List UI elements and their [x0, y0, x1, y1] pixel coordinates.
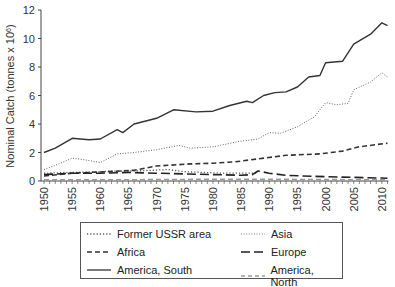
- x-tick-label: 1960: [94, 187, 106, 211]
- x-axis: 1950195519601965197019751980198519901995…: [38, 181, 389, 211]
- dashed-line-swatch-icon: [87, 249, 113, 255]
- series-line-africa: [44, 143, 388, 176]
- x-tick-label: 1965: [122, 187, 134, 211]
- x-tick-label: 1970: [151, 187, 163, 211]
- y-tick-label: 4: [29, 118, 35, 130]
- legend-label: America, North: [270, 264, 342, 287]
- x-tick-label: 1995: [291, 187, 303, 211]
- series-layer: [44, 23, 388, 180]
- legend-item-africa: Africa: [87, 246, 145, 258]
- y-tick-label: 2: [29, 147, 35, 159]
- legend-label: Former USSR area: [117, 228, 211, 240]
- y-axis: 024681012: [23, 4, 41, 187]
- solid-line-swatch-icon: [87, 267, 113, 273]
- legend-item-america-north: America, North: [241, 264, 342, 287]
- x-tick-label: 1980: [207, 187, 219, 211]
- y-tick-label: 8: [29, 61, 35, 73]
- series-line-america-south: [44, 23, 388, 153]
- y-axis-label: Nominal Catch (tonnes x 106): [4, 24, 16, 167]
- legend-label: America, South: [117, 264, 192, 276]
- line-chart: 024681012 195019551960196519701975198019…: [0, 0, 395, 220]
- legend-label: Asia: [271, 228, 292, 240]
- dotted-line-swatch-icon: [87, 231, 113, 237]
- x-tick-label: 1990: [263, 187, 275, 211]
- legend-item-asia: Asia: [241, 228, 292, 240]
- x-tick-label: 1950: [38, 187, 50, 211]
- y-tick-label: 6: [29, 90, 35, 102]
- legend-label: Africa: [117, 246, 145, 258]
- grey-dashed-line-swatch-icon: [241, 273, 266, 279]
- legend-item-america-south: America, South: [87, 264, 192, 276]
- y-tick-label: 10: [23, 33, 35, 45]
- legend-item-europe: Europe: [241, 246, 306, 258]
- x-tick-label: 1985: [235, 187, 247, 211]
- legend-item-former-ussr: Former USSR area: [87, 228, 211, 240]
- y-tick-label: 0: [29, 175, 35, 187]
- long-dash-line-swatch-icon: [241, 249, 267, 255]
- legend-label: Europe: [271, 246, 306, 258]
- x-tick-label: 2010: [376, 187, 388, 211]
- fine-dotted-line-swatch-icon: [241, 231, 267, 237]
- series-line-asia: [44, 73, 388, 170]
- legend: Former USSR area Asia Africa Europe Amer…: [80, 222, 343, 279]
- series-line-america-north: [44, 179, 388, 180]
- x-tick-label: 2000: [320, 187, 332, 211]
- y-tick-label: 12: [23, 4, 35, 16]
- x-tick-label: 1975: [179, 187, 191, 211]
- x-tick-label: 1955: [66, 187, 78, 211]
- x-tick-label: 2005: [348, 187, 360, 211]
